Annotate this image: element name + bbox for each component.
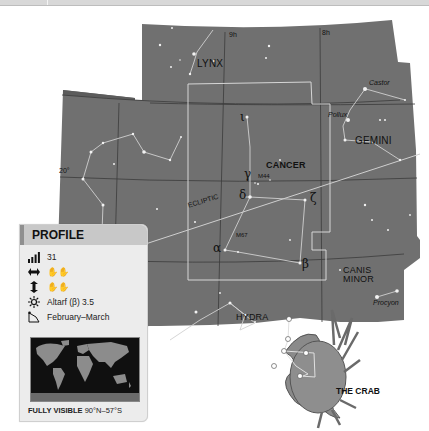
visibility-label: FULLY VISIBLE (28, 406, 83, 415)
constellation-gemini: GEMINI (355, 135, 392, 146)
profile-height-row: ✋✋ (27, 280, 69, 294)
signal-bars-icon (27, 251, 41, 263)
visibility-footer: FULLY VISIBLE 90°N–57°S (28, 406, 122, 415)
height-hands-icon: ✋✋ (47, 282, 69, 292)
profile-brightest-row: Altarf (β) 3.5 (27, 295, 94, 309)
profile-size-row: 31 (27, 250, 56, 264)
constellation-canis-minor: CANISMINOR (343, 266, 374, 284)
profile-season-row: February–March (27, 310, 109, 324)
greek-iota: ι (240, 110, 245, 124)
greek-alpha: α (213, 241, 221, 255)
star-castor-label: Castor (369, 79, 390, 86)
brightest-star-value: Altarf (β) 3.5 (47, 297, 94, 307)
constellation-cancer: CANCER (266, 160, 306, 170)
profile-width-row: ✋✋ (27, 265, 69, 279)
ra-8h-label: 8h (322, 29, 330, 36)
constellation-hydra: HYDRA (236, 312, 269, 322)
greek-beta: β (302, 257, 309, 271)
profile-title: PROFILE (32, 228, 84, 242)
dec-20-label: 20° (59, 167, 70, 174)
size-rank-value: 31 (47, 252, 56, 262)
profile-header: PROFILE (20, 225, 147, 245)
greek-gamma: γ (244, 167, 251, 181)
horizontal-arrows-icon (27, 266, 41, 278)
star-pollux-label: Pollux (328, 111, 347, 118)
calendar-icon (27, 311, 41, 323)
crab-illustration (272, 310, 361, 428)
width-hands-icon: ✋✋ (47, 267, 69, 277)
m44-label: M44 (258, 173, 270, 179)
profile-header-tab (20, 225, 24, 245)
best-seen-value: February–March (47, 312, 109, 322)
profile-card: PROFILE 31 ✋✋ ✋✋ Altarf (β) 3.5 February… (19, 224, 148, 422)
vertical-arrows-icon (27, 281, 41, 293)
ra-9h-label: 9h (229, 31, 237, 38)
crab-caption: THE CRAB (336, 386, 380, 396)
greek-zeta: ζ (310, 191, 317, 205)
visibility-range: 90°N–57°S (85, 406, 122, 415)
star-sun-icon (27, 296, 41, 308)
star-procyon-label: Procyon (373, 299, 399, 306)
world-visibility-map (30, 337, 140, 402)
constellation-lynx: LYNX (197, 58, 223, 69)
m67-label: M67 (236, 232, 248, 238)
greek-delta: δ (239, 188, 246, 202)
